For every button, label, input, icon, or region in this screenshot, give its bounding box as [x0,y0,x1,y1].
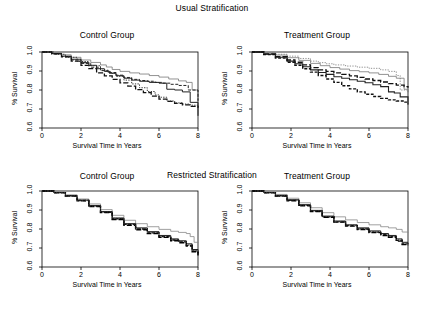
x-tick-label: 4 [113,132,127,139]
survival-curve [42,52,198,108]
x-tick-label: 6 [152,271,166,278]
x-axis-label: Survival Time in Years [214,142,420,149]
y-tick-label: 0.6 [26,257,33,275]
x-tick-label: 8 [191,271,205,278]
x-tick-label: 6 [362,271,376,278]
plot-area [4,185,210,313]
y-tick-label: 1.0 [236,42,243,60]
y-tick-label: 0.8 [236,80,243,98]
usual-stratification-title: Usual Stratification [0,3,424,13]
x-tick-label: 8 [401,271,415,278]
survival-curve [252,191,408,245]
plot-frame [252,52,408,128]
x-tick-label: 0 [245,132,259,139]
panel-title: Treatment Group [214,171,420,181]
y-tick-label: 0.7 [26,99,33,117]
plot-frame [42,191,198,267]
y-tick-label: 0.8 [26,219,33,237]
y-tick-label: 1.0 [26,181,33,199]
survival-curve [252,191,408,245]
survival-curve [252,52,408,105]
y-tick-label: 0.7 [236,99,243,117]
x-tick-label: 2 [74,132,88,139]
survival-curve [42,191,198,253]
x-tick-label: 8 [191,132,205,139]
figure-root: Usual Stratification Restricted Stratifi… [0,0,424,315]
x-tick-label: 2 [74,271,88,278]
y-tick-label: 0.9 [236,61,243,79]
x-tick-label: 0 [245,271,259,278]
survival-curve [252,52,408,103]
x-tick-label: 6 [362,132,376,139]
y-tick-label: 1.0 [236,181,243,199]
x-tick-label: 4 [323,271,337,278]
y-axis-label: % Survival [221,190,228,266]
y-tick-label: 0.9 [236,200,243,218]
y-axis-label: % Survival [11,51,18,127]
x-tick-label: 0 [35,271,49,278]
plot-area [214,185,420,313]
survival-curve [42,191,198,254]
x-tick-label: 2 [284,271,298,278]
y-tick-label: 1.0 [26,42,33,60]
y-tick-label: 0.8 [236,219,243,237]
panel-restricted-control: Control Group0.60.70.80.91.002468% Survi… [4,185,210,313]
x-tick-label: 8 [401,132,415,139]
x-tick-label: 4 [113,271,127,278]
y-axis-label: % Survival [221,51,228,127]
x-axis-label: Survival Time in Years [214,281,420,288]
survival-curve [42,191,198,243]
x-tick-label: 6 [152,132,166,139]
plot-area [214,30,420,170]
survival-curve [42,191,198,256]
y-tick-label: 0.6 [26,118,33,136]
y-tick-label: 0.9 [26,61,33,79]
y-tick-label: 0.6 [236,257,243,275]
panel-restricted-treatment: Treatment Group0.60.70.80.91.002468% Sur… [214,185,420,313]
panel-title: Control Group [4,171,210,181]
y-tick-label: 0.8 [26,80,33,98]
survival-curve [42,191,198,255]
x-tick-label: 0 [35,132,49,139]
y-axis-label: % Survival [11,190,18,266]
survival-curve [42,52,198,116]
x-tick-label: 4 [323,132,337,139]
plot-area [4,30,210,170]
survival-curve [252,191,408,233]
y-tick-label: 0.7 [26,238,33,256]
y-tick-label: 0.7 [236,238,243,256]
x-tick-label: 2 [284,132,298,139]
y-tick-label: 0.6 [236,118,243,136]
panel-usual-control: Control Group0.60.70.80.91.002468% Survi… [4,30,210,170]
plot-frame [252,191,408,267]
y-tick-label: 0.9 [26,200,33,218]
panel-usual-treatment: Treatment Group0.60.70.80.91.002468% Sur… [214,30,420,170]
x-axis-label: Survival Time in Years [4,142,210,149]
x-axis-label: Survival Time in Years [4,281,210,288]
